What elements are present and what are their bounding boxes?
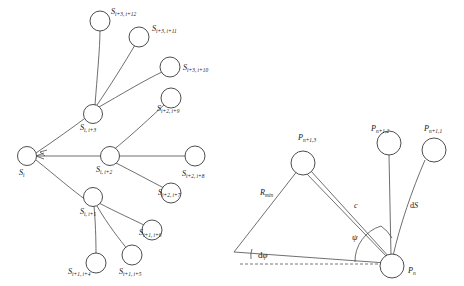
node-leaf-i11[interactable] bbox=[129, 27, 149, 47]
edge-hub3-leaf12 bbox=[95, 30, 100, 105]
label-leaf-i11: Si+3, i+11 bbox=[152, 24, 177, 34]
label-rmin: Rmin bbox=[259, 188, 273, 198]
label-ds: dS bbox=[410, 201, 418, 210]
left-diagram-group: Si+3, i+12 Si+3, i+11 Si+3, i+10 Si+2, i… bbox=[18, 7, 209, 277]
edge-ds-curve bbox=[393, 160, 425, 256]
node-pn1-2[interactable] bbox=[377, 131, 401, 155]
figure-canvas: Si+3, i+12 Si+3, i+11 Si+3, i+10 Si+2, i… bbox=[0, 0, 464, 286]
edge-hub3-leaf10 bbox=[99, 72, 162, 107]
label-c: c bbox=[354, 201, 358, 210]
edge-c-1 bbox=[305, 172, 388, 258]
node-leaf-i4[interactable] bbox=[86, 253, 106, 273]
node-pn[interactable] bbox=[380, 254, 404, 278]
edge-pn1-2 bbox=[389, 155, 391, 256]
edge-hub2-leaf7 bbox=[112, 161, 164, 188]
node-hub-si3[interactable] bbox=[84, 105, 103, 124]
label-leaf-i5: Si+1, i+5 bbox=[119, 267, 142, 277]
node-leaf-i10[interactable] bbox=[160, 57, 180, 77]
edge-hub1-leaf6 bbox=[99, 203, 146, 226]
node-pn1-1[interactable] bbox=[422, 138, 446, 162]
edge-root-hub3 bbox=[36, 116, 88, 153]
label-pn: Pn bbox=[407, 266, 416, 276]
node-leaf-i12[interactable] bbox=[90, 11, 110, 31]
edge-hub1-leaf5 bbox=[97, 206, 128, 250]
edge-baseline bbox=[234, 252, 386, 263]
label-root-si: Si bbox=[19, 168, 25, 178]
node-hub-si1[interactable] bbox=[84, 188, 103, 207]
node-leaf-i5[interactable] bbox=[122, 245, 142, 265]
node-pn1-3[interactable] bbox=[291, 151, 315, 175]
node-leaf-i8[interactable] bbox=[185, 146, 205, 166]
edge-hub3-leaf11 bbox=[97, 45, 135, 105]
label-dpsi: dφ bbox=[258, 250, 268, 260]
label-leaf-i10: Si+3, i+10 bbox=[183, 63, 208, 73]
node-hub-si2[interactable] bbox=[101, 147, 120, 166]
right-diagram-group: Pn+1,3 Pn+1,2 Pn+1,1 Pn Rmin c dS ψ dφ bbox=[234, 124, 446, 278]
edge-c-2 bbox=[310, 170, 390, 258]
label-pn1-1: Pn+1,1 bbox=[423, 124, 442, 134]
edge-root-hub1 bbox=[36, 160, 86, 200]
label-pn1-2: Pn+1,2 bbox=[370, 124, 389, 134]
label-pn1-3: Pn+1,3 bbox=[297, 133, 316, 143]
node-leaf-i9[interactable] bbox=[161, 88, 181, 108]
node-root-si[interactable] bbox=[18, 147, 37, 166]
label-psi: ψ bbox=[352, 232, 358, 242]
label-leaf-i12: Si+3, i+12 bbox=[111, 7, 136, 17]
edge-rmin bbox=[234, 170, 298, 252]
label-hub-si2: Si, i+2 bbox=[96, 165, 112, 175]
label-hub-si3-text: Si, i+3 bbox=[80, 123, 96, 133]
label-leaf-i8: Si+2, i+8 bbox=[182, 169, 205, 179]
arc-dpsi bbox=[251, 249, 252, 259]
